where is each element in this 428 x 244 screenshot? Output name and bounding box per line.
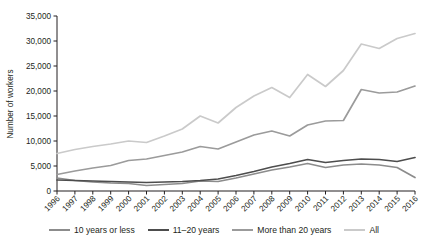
x-axis-ticks [57, 191, 415, 195]
chart-legend: 10 years or less11–20 yearsMore than 20 … [0, 216, 428, 244]
x-axis-year-label: 2016 [401, 194, 421, 214]
x-axis-year-label: 1996 [43, 194, 63, 214]
y-axis-title-text: Number of workers [6, 69, 15, 138]
y-axis-tick-label: 5,000 [31, 162, 52, 171]
x-axis-year-label: 2008 [257, 194, 277, 214]
y-axis-tick-label: 20,000 [26, 87, 51, 96]
x-axis-year-label: 2009 [275, 194, 295, 214]
legend-swatch-line-icon [344, 229, 365, 231]
x-axis-year-label: 2002 [150, 194, 170, 214]
x-axis-year-label: 2003 [168, 194, 188, 214]
legend-item[interactable]: All [344, 226, 379, 235]
x-axis-year-label: 2015 [383, 194, 403, 214]
y-axis-tick-label: 25,000 [26, 62, 51, 71]
legend-swatch-line-icon [148, 229, 169, 231]
legend-item[interactable]: More than 20 years [232, 226, 331, 235]
y-axis-title: Number of workers [6, 69, 15, 138]
chart-plot-area: Number of workers 05,00010,00015,00020,0… [0, 0, 428, 215]
line-chart-figure: Number of workers 05,00010,00015,00020,0… [0, 0, 428, 244]
y-axis-tick-label: 0 [46, 187, 51, 196]
y-axis-ticks: 05,00010,00015,00020,00025,00030,00035,0… [26, 12, 57, 196]
legend-item-label: All [369, 226, 379, 235]
x-axis-year-label: 2007 [240, 194, 260, 214]
x-axis-year-label: 2006 [222, 194, 242, 214]
x-axis-year-label: 2014 [365, 194, 385, 214]
legend-item-label: 11–20 years [173, 226, 220, 235]
x-axis-year-label: 1997 [61, 194, 81, 214]
series-line [57, 86, 415, 175]
legend-item-label: 10 years or less [74, 226, 135, 235]
y-axis-tick-label: 10,000 [26, 137, 51, 146]
y-axis-tick-label: 30,000 [26, 37, 51, 46]
x-axis-year-label: 2004 [186, 194, 206, 214]
series-lines [57, 34, 415, 186]
x-axis-year-label: 2012 [329, 194, 349, 214]
y-axis-tick-label: 35,000 [26, 12, 51, 21]
chart-svg: Number of workers 05,00010,00015,00020,0… [0, 0, 428, 215]
legend-item[interactable]: 11–20 years [148, 226, 220, 235]
y-axis-tick-label: 15,000 [26, 112, 51, 121]
legend-item[interactable]: 10 years or less [49, 226, 135, 235]
legend-swatch-line-icon [49, 229, 70, 231]
x-axis-year-label: 1999 [96, 194, 116, 214]
x-axis-year-label: 2010 [293, 194, 313, 214]
x-axis-year-label: 2011 [312, 194, 331, 213]
x-axis-year-label: 1998 [78, 194, 98, 214]
series-line [57, 34, 415, 154]
x-axis-year-label: 2001 [132, 194, 152, 214]
x-axis-year-label: 2005 [204, 194, 224, 214]
x-axis-year-label: 2013 [347, 194, 367, 214]
x-axis-labels: 1996199719981999200020012002200320042005… [43, 194, 421, 214]
x-axis-year-label: 2000 [114, 194, 134, 214]
legend-swatch-line-icon [232, 229, 253, 231]
legend-item-label: More than 20 years [257, 226, 331, 235]
